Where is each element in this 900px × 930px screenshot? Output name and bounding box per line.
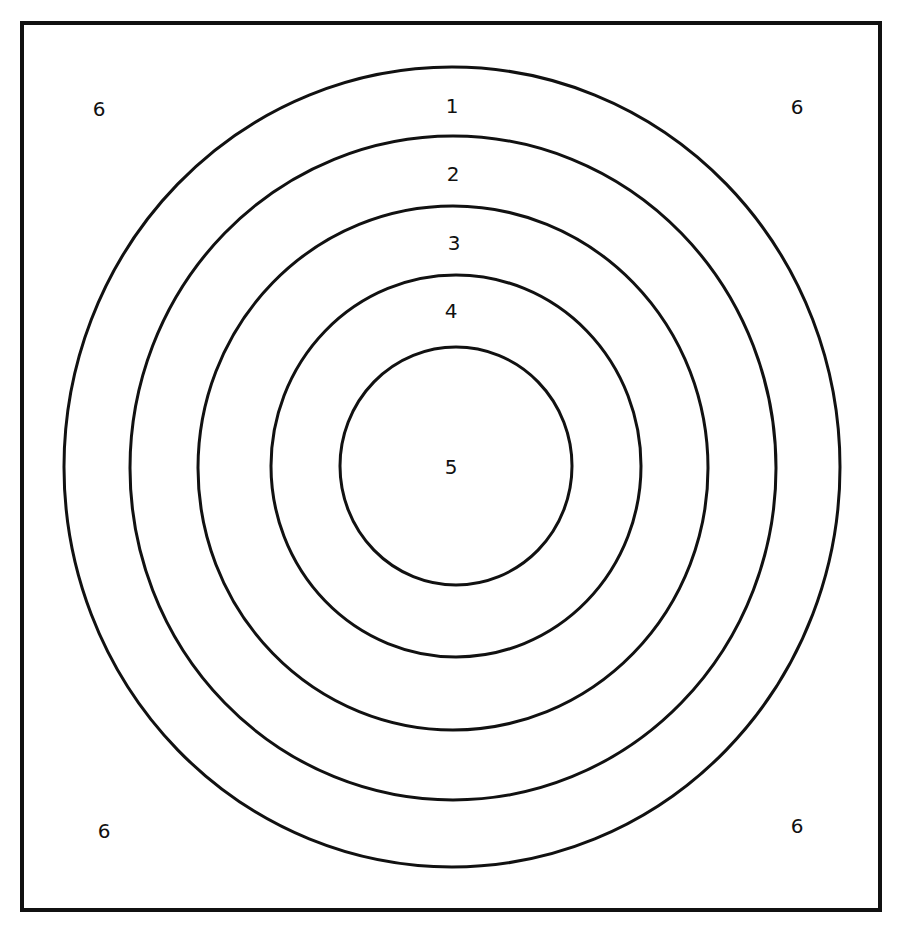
zone-label-6-top-right: 6 [791,95,804,119]
zone-label-6-top-left: 6 [93,97,106,121]
zone-label-6-bottom-left: 6 [98,819,111,843]
zone-label-2: 2 [447,162,460,186]
zone-label-4: 4 [445,299,458,323]
target-zone-diagram: 1 2 3 4 5 6 6 6 6 [0,0,900,930]
zone-label-6-bottom-right: 6 [791,814,804,838]
zone-label-3: 3 [448,231,461,255]
zone-label-5: 5 [445,455,458,479]
zone-label-1: 1 [446,94,459,118]
